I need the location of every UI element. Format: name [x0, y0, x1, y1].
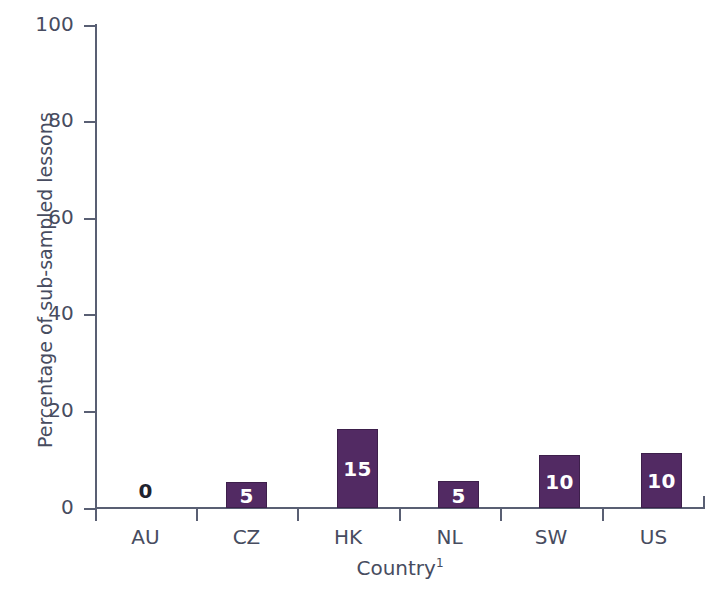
y-tick-label: 80	[28, 108, 74, 132]
bar-nl: 5	[438, 481, 479, 508]
x-axis-endcap	[703, 496, 705, 508]
x-tick-mark	[500, 509, 502, 521]
x-category-label-sw: SW	[500, 525, 602, 549]
x-tick-mark	[95, 509, 97, 521]
x-category-label-hk: HK	[297, 525, 399, 549]
bar-value-nl: 5	[439, 484, 478, 508]
x-tick-mark	[297, 509, 299, 521]
bar-us: 10	[641, 453, 682, 508]
bar-chart: Percentage of sub-sampled lessons 100 80…	[0, 0, 723, 593]
y-tick-mark	[84, 25, 96, 27]
bar-cz: 5	[226, 482, 267, 508]
x-category-label-au: AU	[95, 525, 196, 549]
y-tick-label: 60	[28, 205, 74, 229]
y-tick-mark	[84, 121, 96, 123]
bar-value-us: 10	[642, 469, 681, 493]
x-axis-title: Country1	[95, 556, 705, 580]
y-tick-label: 100	[28, 12, 74, 36]
x-axis-title-footnote: 1	[436, 556, 444, 570]
bar-sw: 10	[539, 455, 580, 508]
y-tick-mark	[84, 218, 96, 220]
bar-value-sw: 10	[540, 470, 579, 494]
y-tick-label: 0	[28, 495, 74, 519]
y-tick-label: 20	[28, 398, 74, 422]
bar-hk: 15	[337, 429, 378, 508]
bar-value-hk: 15	[338, 457, 377, 481]
x-category-label-cz: CZ	[196, 525, 297, 549]
bar-value-cz: 5	[227, 484, 266, 508]
y-axis-line	[95, 24, 97, 510]
y-tick-mark	[84, 411, 96, 413]
x-category-label-nl: NL	[399, 525, 500, 549]
bar-value-au: 0	[95, 479, 196, 503]
y-tick-label: 40	[28, 301, 74, 325]
x-tick-mark	[196, 509, 198, 521]
y-tick-mark	[84, 314, 96, 316]
x-tick-mark	[399, 509, 401, 521]
x-category-label-us: US	[602, 525, 705, 549]
x-axis-title-text: Country	[356, 556, 435, 580]
x-tick-mark	[602, 509, 604, 521]
